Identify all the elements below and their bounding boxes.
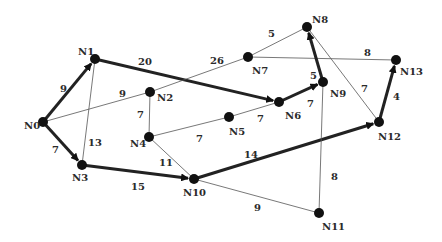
edge-weight-label: 7	[196, 133, 203, 144]
edge-weight-label: 7	[257, 113, 264, 124]
edge-n4-n5	[149, 117, 229, 137]
edge-weight-label: 8	[364, 47, 371, 58]
edge-weight-label: 5	[268, 28, 275, 39]
node-label: N8	[312, 14, 328, 25]
node-n7	[243, 52, 253, 62]
edge-weight-label: 8	[331, 171, 338, 182]
edge-weight-label: 15	[131, 181, 145, 192]
edge-weight-label: 4	[393, 91, 400, 102]
node-n6	[274, 97, 284, 107]
graph-canvas: 97913202677711151495875784N0N1N2N3N4N5N6…	[0, 0, 442, 242]
node-n13	[391, 55, 401, 65]
edge-weight-label: 7	[137, 109, 144, 120]
node-label: N2	[157, 92, 173, 103]
edge-n0-n2	[43, 92, 150, 122]
node-n9	[318, 77, 328, 87]
node-n12	[374, 117, 384, 127]
node-label: N0	[24, 120, 40, 131]
labels-layer: 97913202677711151495875784N0N1N2N3N4N5N6…	[24, 14, 423, 232]
edge-n7-n8	[248, 27, 307, 57]
edge-n9-n11	[319, 82, 323, 213]
edge-weight-label: 9	[60, 83, 67, 94]
edge-weight-label: 7	[361, 83, 368, 94]
edge-weight-label: 20	[138, 56, 152, 67]
node-label: N4	[130, 138, 146, 149]
edge-weight-label: 13	[88, 137, 102, 148]
edge-weight-label: 7	[52, 144, 59, 155]
node-n11	[314, 208, 324, 218]
edge-n0-n3	[43, 122, 78, 161]
edge-weight-label: 5	[310, 70, 317, 81]
node-label: N1	[78, 46, 94, 57]
edge-weight-label: 26	[210, 55, 224, 66]
node-label: N11	[322, 221, 345, 232]
node-label: N3	[72, 172, 88, 183]
edge-weight-label: 11	[159, 157, 173, 168]
node-n2	[145, 87, 155, 97]
edge-weight-label: 9	[119, 88, 126, 99]
node-n3	[77, 160, 87, 170]
node-label: N12	[378, 131, 401, 142]
edge-n0-n1	[43, 64, 91, 122]
edge-n5-n6	[229, 102, 279, 117]
node-label: N6	[285, 110, 301, 121]
node-n8	[302, 22, 312, 32]
node-label: N13	[400, 66, 423, 77]
edge-n7-n13	[248, 57, 396, 60]
edge-n1-n3	[82, 59, 95, 165]
node-label: N7	[252, 65, 268, 76]
edge-n10-n12	[194, 124, 373, 179]
edge-weight-label: 14	[244, 149, 258, 160]
node-n10	[189, 174, 199, 184]
node-label: N10	[183, 187, 206, 198]
edge-n8-n12	[307, 27, 379, 122]
node-n5	[224, 112, 234, 122]
node-label: N5	[229, 126, 245, 137]
edge-weight-label: 9	[254, 202, 261, 213]
node-label: N9	[330, 88, 346, 99]
edge-n2-n4	[149, 92, 150, 137]
edge-weight-label: 7	[307, 98, 314, 109]
